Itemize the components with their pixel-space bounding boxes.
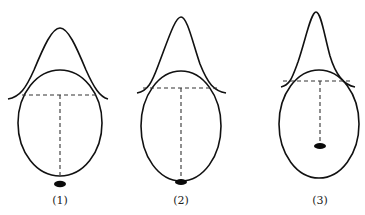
diagram-canvas: (1) (2) (3) — [0, 0, 365, 215]
figure-2: (2) — [137, 17, 226, 207]
bell-curve — [8, 28, 108, 99]
figure-label: (3) — [312, 194, 328, 207]
spot-marker — [175, 179, 187, 185]
figure-label: (1) — [52, 194, 68, 207]
bell-curve — [137, 17, 226, 93]
figure-3: (3) — [279, 12, 359, 207]
spot-marker — [54, 181, 66, 187]
spot-marker — [314, 143, 326, 149]
bell-curve — [281, 12, 355, 87]
ellipse — [279, 70, 359, 178]
figure-1: (1) — [8, 28, 108, 207]
figure-label: (2) — [173, 194, 189, 207]
